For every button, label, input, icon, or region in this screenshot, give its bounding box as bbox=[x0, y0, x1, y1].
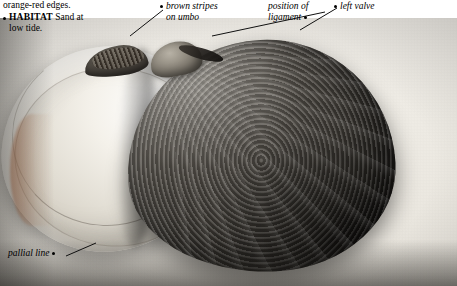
label-brown-stripes-line1: brown stripes bbox=[166, 1, 218, 12]
caption-block: orange-red edges. HABITAT Sand at low ti… bbox=[3, 0, 153, 35]
caption-line-1: orange-red edges. bbox=[3, 0, 153, 12]
label-pallial-line: pallial line bbox=[8, 248, 55, 259]
label-left-valve: left valve bbox=[334, 1, 375, 12]
label-brown-stripes-line2: on umbo bbox=[166, 12, 218, 23]
label-brown-stripes: brown stripes on umbo bbox=[160, 1, 218, 24]
bullet-icon bbox=[52, 252, 55, 255]
bullet-icon bbox=[160, 5, 163, 8]
label-pallial-line-line1: pallial line bbox=[8, 248, 49, 259]
photo-vignette bbox=[0, 18, 457, 286]
label-left-valve-line1: left valve bbox=[340, 1, 375, 12]
label-ligament-line2: ligament bbox=[268, 12, 301, 23]
bullet-icon bbox=[3, 17, 6, 20]
habitat-text-cont: low tide. bbox=[9, 23, 153, 35]
habitat-label: HABITAT bbox=[9, 12, 53, 22]
bullet-icon bbox=[304, 16, 307, 19]
shell-identification-plate: orange-red edges. HABITAT Sand at low ti… bbox=[0, 0, 457, 286]
label-position-of-ligament: position of ligament bbox=[268, 1, 308, 24]
bullet-icon bbox=[334, 5, 337, 8]
specimen-photograph bbox=[0, 18, 457, 286]
label-ligament-line1: position of bbox=[268, 1, 308, 12]
habitat-entry: HABITAT Sand at bbox=[3, 12, 153, 24]
habitat-text: Sand at bbox=[55, 12, 83, 22]
